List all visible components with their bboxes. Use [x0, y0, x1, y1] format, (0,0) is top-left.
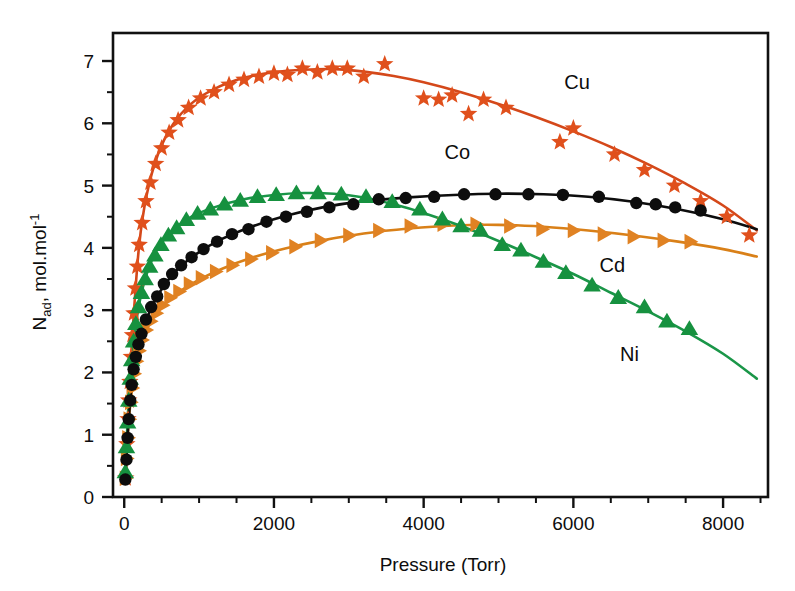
data-point-Co-2	[121, 432, 133, 444]
x-tick-label-4000: 4000	[403, 513, 445, 534]
y-axis-title-rest: , mol.mol	[29, 225, 50, 302]
data-point-Co-31	[522, 188, 534, 200]
series-label-Co: Co	[445, 141, 471, 163]
data-point-Co-35	[650, 198, 662, 210]
y-tick-label-3: 3	[83, 300, 94, 321]
y-tick-label-1: 1	[83, 425, 94, 446]
data-point-Co-9	[135, 328, 147, 340]
y-axis-title-main: N	[29, 317, 50, 331]
data-point-Co-10	[140, 313, 152, 325]
adsorption-isotherm-chart: 02000400060008000 01234567 CuCoNiCd Pres…	[0, 0, 795, 591]
data-point-Co-8	[132, 338, 144, 350]
data-point-Co-20	[242, 223, 254, 235]
data-point-Co-3	[123, 413, 135, 425]
x-axis-title: Pressure (Torr)	[380, 554, 507, 575]
data-point-Co-28	[428, 191, 440, 203]
data-point-Co-22	[280, 211, 292, 223]
data-point-Co-14	[166, 268, 178, 280]
series-label-Cu: Cu	[564, 71, 590, 93]
data-point-Co-11	[145, 301, 157, 313]
series-label-Ni: Ni	[620, 343, 639, 365]
x-tick-label-8000: 8000	[702, 513, 744, 534]
data-point-Co-5	[126, 379, 138, 391]
data-point-Co-7	[130, 351, 142, 363]
data-point-Co-23	[301, 206, 313, 218]
data-point-Co-18	[211, 235, 223, 247]
data-point-Co-1	[120, 453, 132, 465]
data-point-Co-0	[119, 473, 131, 485]
data-point-Co-6	[127, 363, 139, 375]
y-axis-title-subscript: ad	[39, 302, 54, 316]
data-point-Co-17	[197, 243, 209, 255]
chart-background	[0, 0, 795, 591]
data-point-Co-13	[158, 278, 170, 290]
data-point-Co-30	[489, 188, 501, 200]
data-point-Co-36	[669, 201, 681, 213]
y-tick-label-0: 0	[83, 487, 94, 508]
y-tick-label-5: 5	[83, 176, 94, 197]
y-axis-title-superscript: -1	[27, 214, 42, 226]
data-point-Co-12	[151, 290, 163, 302]
y-tick-label-2: 2	[83, 362, 94, 383]
data-point-Co-19	[226, 228, 238, 240]
x-tick-label-6000: 6000	[552, 513, 594, 534]
data-point-Co-4	[124, 394, 136, 406]
y-tick-label-6: 6	[83, 113, 94, 134]
chart-figure: 02000400060008000 01234567 CuCoNiCd Pres…	[0, 0, 795, 591]
data-point-Co-21	[260, 216, 272, 228]
data-point-Co-32	[557, 189, 569, 201]
data-point-Co-34	[630, 197, 642, 209]
data-point-Co-33	[593, 191, 605, 203]
x-tick-label-0: 0	[119, 513, 130, 534]
data-point-Co-29	[458, 188, 470, 200]
data-point-Co-24	[323, 201, 335, 213]
series-label-Cd: Cd	[600, 254, 626, 276]
x-tick-label-2000: 2000	[253, 513, 295, 534]
data-point-Co-37	[694, 204, 706, 216]
data-point-Co-15	[175, 259, 187, 271]
data-point-Co-16	[185, 251, 197, 263]
y-tick-label-4: 4	[83, 238, 94, 259]
y-tick-label-7: 7	[83, 51, 94, 72]
data-point-Co-26	[373, 193, 385, 205]
data-point-Co-25	[347, 198, 359, 210]
data-point-Co-27	[399, 192, 411, 204]
